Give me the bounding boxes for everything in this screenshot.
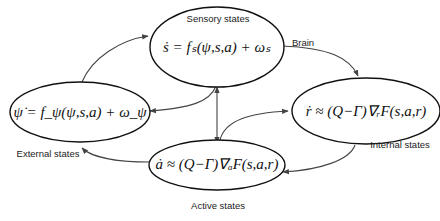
node-active-states: ȧ ≈ (Q−Γ)∇ₐF(s,a,r) Active states (149, 140, 285, 211)
brain-label: Brain (292, 37, 314, 48)
edge-sensory-to-external (150, 86, 216, 111)
external-label: External states (17, 148, 80, 159)
internal-equation: ṙ ≈ (Q−Γ)∇ᵣF(s,a,r) (306, 103, 427, 120)
node-sensory-states: ṡ = fₛ(ψ,s,a) + ωₛ Sensory states (150, 7, 284, 87)
node-external-states: ψ̇ = f_ψ(ψ,s,a) + ω_ψ External states (10, 82, 150, 159)
edge-sensory-to-internal (282, 46, 358, 76)
active-label: Active states (191, 200, 245, 211)
edge-active-to-external (82, 148, 150, 162)
edge-active-to-internal (220, 111, 288, 140)
edge-internal-to-active (283, 145, 355, 172)
node-internal-states: ṙ ≈ (Q−Γ)∇ᵣF(s,a,r) Internal states (292, 78, 440, 150)
sensory-equation: ṡ = fₛ(ψ,s,a) + ωₛ (163, 39, 271, 56)
sensory-label: Sensory states (187, 13, 250, 24)
markov-blanket-diagram: ṡ = fₛ(ψ,s,a) + ωₛ Sensory states Brain … (0, 0, 440, 221)
active-equation: ȧ ≈ (Q−Γ)∇ₐF(s,a,r) (156, 156, 279, 173)
internal-label: Internal states (370, 139, 430, 150)
edge-external-to-sensory (82, 36, 148, 82)
external-equation: ψ̇ = f_ψ(ψ,s,a) + ω_ψ (13, 104, 147, 121)
